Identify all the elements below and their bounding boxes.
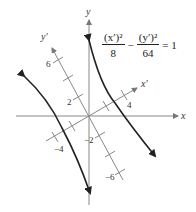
hyperbola-equation: (x′)² 8 − (y′)² 64 = 1 — [100, 31, 178, 59]
tick-label-x-prime-4: 4 — [127, 101, 132, 110]
tick-label-y-prime-neg2: −2 — [84, 136, 94, 145]
denominator-8: 8 — [111, 45, 117, 59]
tick-label-x-prime-neg4: −4 — [54, 145, 64, 154]
numerator-y-prime-squared: (y′)² — [137, 31, 160, 45]
minus-operator: − — [128, 39, 134, 51]
y-axis-label: y — [86, 7, 90, 17]
fraction-y-prime: (y′)² 64 — [137, 31, 160, 59]
denominator-64: 64 — [143, 45, 154, 59]
x-prime-axis-label: x′ — [141, 79, 148, 89]
equals-one: = 1 — [162, 39, 176, 51]
y-prime-axis — [52, 48, 123, 180]
y-prime-axis-label: y′ — [41, 32, 48, 42]
tick-label-y-prime-6: 6 — [46, 60, 51, 69]
x-axis-label: x — [181, 111, 185, 121]
fraction-x-prime: (x′)² 8 — [102, 31, 125, 59]
tick-label-y-prime-neg6: −6 — [105, 173, 115, 182]
tick-label-y-prime-2: 2 — [67, 98, 72, 107]
numerator-x-prime-squared: (x′)² — [102, 31, 125, 45]
